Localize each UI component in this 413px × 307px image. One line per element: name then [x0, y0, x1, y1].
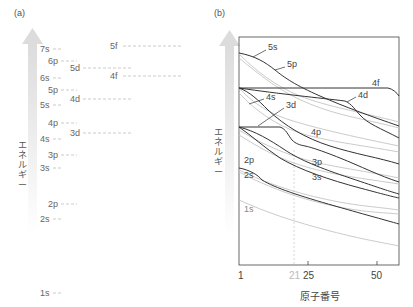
orbital-level-4s: 4s — [40, 134, 50, 144]
orbital-level-6s: 6s — [40, 73, 50, 83]
x-tick-1: 1 — [238, 270, 244, 281]
orbital-level-4d: 4d — [70, 94, 80, 104]
orbital-level-4f: 4f — [110, 71, 118, 81]
orbital-level-6p: 6p — [48, 56, 58, 66]
curve-label-2p: 2p — [244, 155, 254, 165]
y-label-char: エ — [17, 140, 27, 150]
plot-frame — [239, 37, 399, 265]
y-label-char: ル — [213, 147, 223, 157]
orbital-level-2p: 2p — [48, 199, 58, 209]
y-label-char: ー — [213, 167, 223, 177]
x-tick-25: 25 — [303, 270, 314, 281]
curve-label-3s: 3s — [312, 172, 322, 182]
x-tick-21: 21 — [289, 270, 300, 281]
curve-label-5p: 5p — [287, 59, 297, 69]
orbital-level-3p: 3p — [48, 150, 58, 160]
y-label-char: ギ — [17, 170, 27, 180]
curve-label-4f: 4f — [372, 78, 380, 88]
curve-label-4d: 4d — [358, 90, 368, 100]
energy-axis-label-a: エ ネ ル ギ ー — [17, 140, 27, 190]
orbital-level-7s: 7s — [40, 44, 50, 54]
level-lines — [53, 46, 181, 293]
y-label-char: ネ — [213, 137, 223, 147]
y-label-char: ギ — [213, 157, 223, 167]
curve-label-5s: 5s — [268, 42, 278, 52]
y-label-char: エ — [213, 127, 223, 137]
orbital-level-3d: 3d — [70, 128, 80, 138]
energy-arrow-a — [22, 28, 43, 234]
curve-label-3d: 3d — [286, 100, 296, 110]
orbital-level-5f: 5f — [110, 41, 118, 51]
y-label-char: ネ — [17, 150, 27, 160]
curve-label-3p: 3p — [312, 157, 322, 167]
y-label-char: ル — [17, 160, 27, 170]
orbital-level-1s: 1s — [40, 288, 50, 298]
energy-axis-label-b: エ ネ ル ギ ー — [213, 127, 223, 177]
curve-label-2s: 2s — [244, 170, 254, 180]
curve-label-4s: 4s — [266, 92, 276, 102]
orbital-level-2s: 2s — [40, 214, 50, 224]
x-tick-50: 50 — [371, 270, 382, 281]
orbital-level-5s: 5s — [40, 100, 50, 110]
curve-label-1s: 1s — [244, 204, 254, 214]
panel-b-label: (b) — [214, 8, 225, 18]
orbital-level-5p: 5p — [48, 85, 58, 95]
curve-label-4p: 4p — [311, 127, 321, 137]
x-axis-label: 原子番号 — [300, 288, 340, 303]
y-label-char: ー — [17, 180, 27, 190]
orbital-level-5d: 5d — [70, 63, 80, 73]
orbital-level-3s: 3s — [40, 163, 50, 173]
diagram-canvas — [0, 0, 413, 307]
orbital-level-4p: 4p — [48, 118, 58, 128]
